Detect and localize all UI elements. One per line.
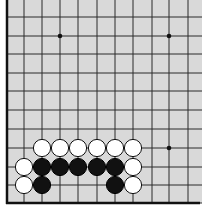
- black-stone[interactable]: [88, 158, 105, 175]
- black-stone[interactable]: [69, 158, 86, 175]
- go-board-grid[interactable]: [0, 0, 202, 209]
- white-stone[interactable]: [15, 176, 32, 193]
- white-stone[interactable]: [124, 139, 141, 156]
- black-stone[interactable]: [106, 176, 123, 193]
- black-stone[interactable]: [106, 158, 123, 175]
- black-stone[interactable]: [51, 158, 68, 175]
- white-stone[interactable]: [15, 158, 32, 175]
- black-stone[interactable]: [33, 176, 50, 193]
- white-stone[interactable]: [124, 176, 141, 193]
- white-stone[interactable]: [69, 139, 86, 156]
- star-point-icon: [167, 34, 172, 39]
- white-stone[interactable]: [51, 139, 68, 156]
- white-stone[interactable]: [124, 158, 141, 175]
- white-stone[interactable]: [88, 139, 105, 156]
- black-stone[interactable]: [33, 158, 50, 175]
- star-point-icon: [167, 146, 172, 151]
- go-board[interactable]: [0, 0, 202, 209]
- white-stone[interactable]: [106, 139, 123, 156]
- star-point-icon: [58, 34, 63, 39]
- white-stone[interactable]: [33, 139, 50, 156]
